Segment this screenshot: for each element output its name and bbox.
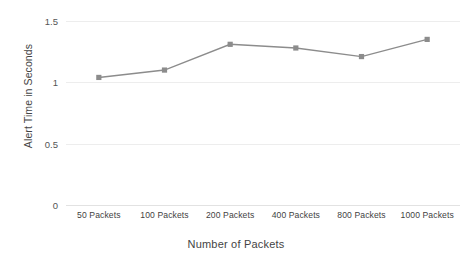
data-point-marker [293, 45, 298, 50]
y-tick-label: 1.5 [45, 16, 58, 27]
data-point-marker [228, 42, 233, 47]
y-tick-label: 0 [53, 200, 58, 211]
data-point-marker [162, 67, 167, 72]
data-point-marker [425, 37, 430, 42]
x-axis-tick-labels: 50 Packets 100 Packets 200 Packets 400 P… [66, 210, 460, 226]
x-tick-label-100: 100 Packets [140, 210, 188, 220]
x-tick-label-200: 200 Packets [206, 210, 254, 220]
x-tick-label-800: 800 Packets [337, 210, 385, 220]
y-tick-label: 0.5 [45, 138, 58, 149]
y-tick-label: 1 [53, 77, 58, 88]
x-tick-label-50: 50 Packets [77, 210, 121, 220]
x-tick-label-1000: 1000 Packets [401, 210, 454, 220]
series-markers [96, 37, 430, 80]
x-axis-title: Number of Packets [0, 238, 472, 250]
data-point-marker [96, 75, 101, 80]
line-chart: Alert Time in Seconds 1.5 1 0.5 0 50 Pac… [0, 0, 472, 262]
series-line [99, 39, 427, 77]
x-tick-label-400: 400 Packets [272, 210, 320, 220]
data-point-marker [359, 54, 364, 59]
y-axis-tick-labels: 1.5 1 0.5 0 [0, 0, 66, 262]
series-alert-time [66, 0, 460, 210]
